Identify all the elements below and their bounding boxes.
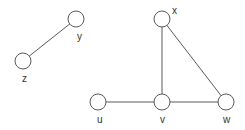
node-label-u: u xyxy=(97,114,103,125)
node-v xyxy=(154,94,170,110)
node-x xyxy=(154,11,170,27)
node-z xyxy=(15,53,31,69)
node-label-w: w xyxy=(222,114,231,125)
node-label-y: y xyxy=(77,31,82,42)
edge-x-w xyxy=(162,19,226,102)
edges-group xyxy=(23,19,226,102)
nodes-group xyxy=(15,11,234,110)
edge-y-z xyxy=(23,19,76,61)
node-label-x: x xyxy=(172,5,177,16)
node-label-z: z xyxy=(22,73,27,84)
node-y xyxy=(68,11,84,27)
node-label-v: v xyxy=(160,114,165,125)
graph-diagram: yzxuvw xyxy=(0,0,245,130)
labels-group: yzxuvw xyxy=(22,5,231,125)
node-w xyxy=(218,94,234,110)
node-u xyxy=(90,94,106,110)
graph-canvas: yzxuvw xyxy=(0,0,245,130)
